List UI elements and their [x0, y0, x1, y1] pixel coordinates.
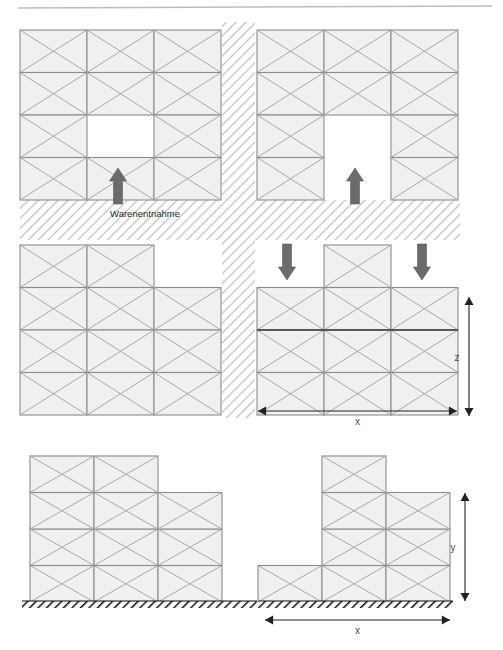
elevation-block-right	[258, 456, 450, 602]
dim-z-head-bottom	[465, 408, 474, 416]
arrow-up-right-block	[347, 168, 364, 204]
diagram-canvas: zxyx Warenentnahme	[0, 0, 503, 650]
vertical-aisle-lower	[222, 240, 255, 418]
top-horizontal-rule	[18, 6, 492, 8]
elevation-view-blocks	[30, 456, 450, 602]
ground-hatch-group	[22, 601, 453, 608]
dim-z-label: z	[455, 352, 460, 363]
warehouse-rack-diagram: zxyx Warenentnahme	[0, 0, 503, 650]
label-warenentnahme: Warenentnahme	[110, 208, 180, 219]
dim-x-label: x	[355, 416, 360, 427]
horizontal-aisle	[20, 200, 460, 240]
dim-y-head-top	[461, 493, 470, 501]
dim-x-elev-head-right	[442, 616, 450, 625]
dim-x-elev-label: x	[355, 625, 360, 636]
arrow-down-right	[414, 244, 431, 280]
arrow-down-left	[279, 244, 296, 280]
plan-block-bottom-left	[20, 245, 221, 415]
elevation-block-left	[30, 456, 222, 602]
ground-hatch-left	[22, 601, 257, 608]
vertical-aisle	[222, 22, 255, 217]
dim-x-elev-head-left	[265, 616, 273, 625]
dim-z-head-top	[465, 297, 474, 305]
ground-hatch-right	[258, 601, 453, 608]
dim-y-head-bottom	[461, 593, 470, 601]
dim-y-label: y	[451, 542, 456, 553]
